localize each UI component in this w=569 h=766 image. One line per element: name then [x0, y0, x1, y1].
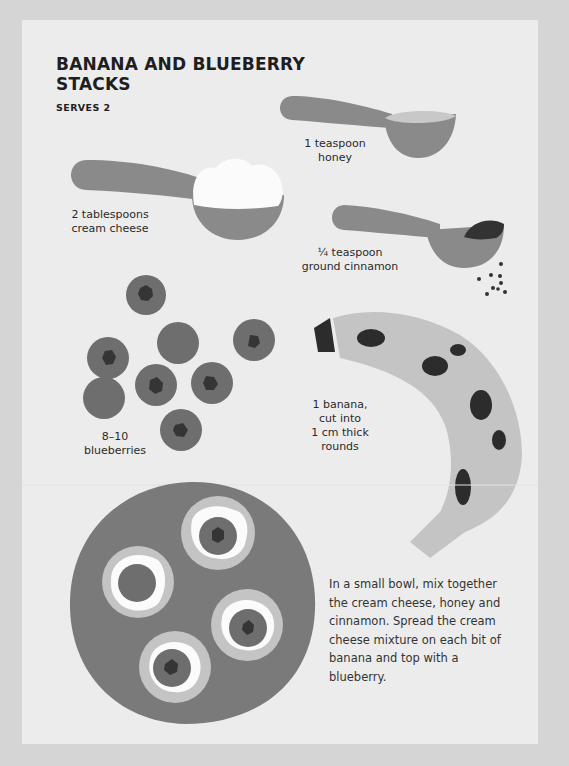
- cream-cheese-label: 2 tablespoons cream cheese: [55, 208, 165, 236]
- banana-label: 1 banana, cut into 1 cm thick rounds: [300, 398, 380, 454]
- stack-2-icon: [102, 546, 174, 618]
- recipe-title: BANANA AND BLUEBERRY STACKS: [56, 54, 316, 94]
- stack-1-icon: [181, 496, 255, 570]
- banana-label-line3: 1 cm thick: [300, 426, 380, 440]
- banana-label-line1: 1 banana,: [300, 398, 380, 412]
- plate-icon: [70, 482, 315, 724]
- cinnamon-dots-icon: [477, 262, 507, 296]
- honey-label: 1 teaspoon honey: [285, 137, 385, 165]
- cinnamon-label-line2: ground cinnamon: [290, 260, 410, 274]
- blueberries-label: 8–10 blueberries: [70, 430, 160, 458]
- serves-label: SERVES 2: [56, 102, 110, 113]
- cream-cheese-label-line2: cream cheese: [55, 222, 165, 236]
- stack-4-icon: [139, 631, 211, 703]
- banana-label-line2: cut into: [300, 412, 380, 426]
- instructions-text: In a small bowl, mix together the cream …: [329, 575, 509, 687]
- honey-label-line2: honey: [285, 151, 385, 165]
- blueberries-label-line2: blueberries: [70, 444, 160, 458]
- stack-3-icon: [211, 589, 283, 661]
- blueberries-icon: [83, 275, 275, 451]
- honey-label-line1: 1 teaspoon: [285, 137, 385, 151]
- cinnamon-label: ¼ teaspoon ground cinnamon: [290, 246, 410, 274]
- cinnamon-label-line1: ¼ teaspoon: [290, 246, 410, 260]
- banana-label-line4: rounds: [300, 440, 380, 454]
- blueberries-label-line1: 8–10: [70, 430, 160, 444]
- cream-cheese-label-line1: 2 tablespoons: [55, 208, 165, 222]
